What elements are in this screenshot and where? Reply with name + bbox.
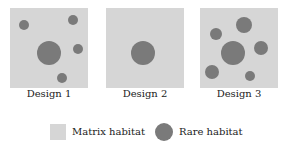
rare-habitat-patch <box>68 15 78 25</box>
rare-habitat-patch <box>73 44 83 54</box>
matrix-swatch-icon <box>50 124 66 140</box>
matrix-square <box>200 8 278 88</box>
rare-habitat-patch <box>131 41 155 65</box>
design-3 <box>200 8 278 88</box>
rare-habitat-patch <box>221 41 245 65</box>
matrix-square <box>10 8 88 88</box>
rare-habitat-patch <box>37 41 61 65</box>
rare-habitat-patch <box>236 17 252 33</box>
rare-habitat-patch <box>254 41 268 55</box>
legend-matrix-label: Matrix habitat <box>72 126 145 137</box>
design-3-label: Design 3 <box>200 88 278 99</box>
rare-habitat-patch <box>19 20 29 30</box>
design-1-label: Design 1 <box>10 88 88 99</box>
design-2-label: Design 2 <box>106 88 184 99</box>
design-2 <box>106 8 184 88</box>
legend-rare-label: Rare habitat <box>179 126 243 137</box>
rare-habitat-patch <box>210 28 222 40</box>
rare-habitat-patch <box>57 73 67 83</box>
rare-dot-icon <box>155 123 173 141</box>
rare-habitat-patch <box>245 71 255 81</box>
legend: Matrix habitat Rare habitat <box>0 122 291 142</box>
rare-habitat-patch <box>205 65 219 79</box>
matrix-square <box>106 8 184 88</box>
design-1 <box>10 8 88 88</box>
